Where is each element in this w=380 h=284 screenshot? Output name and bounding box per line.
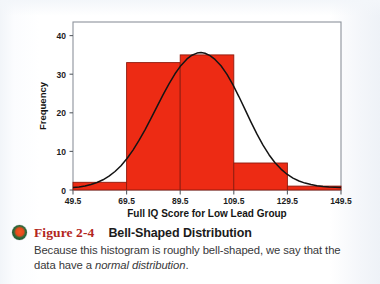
caption-text-after: . (185, 259, 188, 271)
caption-text-emphasis: normal distribution (95, 259, 185, 271)
chart-canvas: 0 10 20 30 40 (0, 0, 380, 222)
y-tick-40: 40 (57, 31, 73, 41)
bar-bin-3 (180, 55, 234, 190)
y-tick-label: 30 (57, 70, 67, 80)
page-background: 0 10 20 30 40 (0, 0, 380, 284)
figure-caption-text: Because this histogram is roughly bell-s… (34, 243, 352, 272)
figure-title: Bell-Shaped Distribution (108, 226, 251, 240)
bar-bin-2 (127, 63, 181, 190)
x-axis: 49.5 69.5 89.5 109.5 129.5 (65, 190, 352, 206)
x-tick-label: 149.5 (330, 196, 352, 206)
x-tick-label: 89.5 (172, 196, 189, 206)
x-tick-149-5: 149.5 (330, 190, 352, 206)
y-tick-20: 20 (57, 108, 73, 118)
y-tick-label: 20 (57, 108, 67, 118)
y-tick-label: 40 (57, 31, 67, 41)
y-axis: 0 10 20 30 40 (57, 31, 73, 195)
y-tick-label: 10 (57, 147, 67, 157)
y-tick-30: 30 (57, 70, 73, 80)
x-tick-label: 109.5 (223, 196, 245, 206)
circle-logo-icon (12, 225, 27, 240)
y-tick-10: 10 (57, 147, 73, 157)
x-tick-label: 129.5 (277, 196, 299, 206)
x-axis-title: Full IQ Score for Low Lead Group (127, 208, 286, 219)
x-tick-49-5: 49.5 (65, 190, 82, 206)
x-tick-label: 69.5 (118, 196, 135, 206)
figure-caption-header: Figure 2-4 Bell-Shaped Distribution (12, 224, 368, 241)
x-tick-89-5: 89.5 (172, 190, 189, 206)
y-axis-title: Frequency (37, 81, 48, 130)
x-tick-129-5: 129.5 (277, 190, 299, 206)
x-tick-109-5: 109.5 (223, 190, 245, 206)
x-tick-label: 49.5 (65, 196, 82, 206)
histogram-figure: 0 10 20 30 40 (0, 0, 380, 222)
figure-caption: Figure 2-4 Bell-Shaped Distribution Beca… (0, 224, 380, 272)
y-tick-0: 0 (61, 186, 73, 196)
figure-number: Figure 2-4 (34, 225, 94, 241)
x-tick-69-5: 69.5 (118, 190, 135, 206)
y-tick-label: 0 (61, 186, 66, 196)
